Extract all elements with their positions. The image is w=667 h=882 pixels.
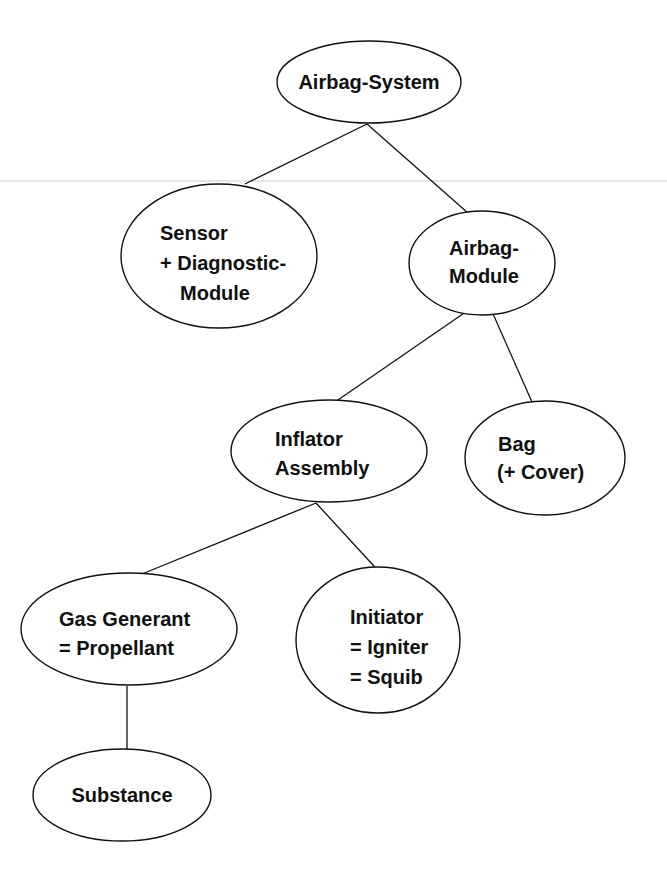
node-label: Airbag-System [298, 71, 439, 93]
node-label-line-2: = Propellant [59, 637, 174, 659]
node-initiator: Initiator = Igniter = Squib [296, 567, 460, 713]
node-sensor-diagnostic-module: Sensor + Diagnostic- Module [121, 184, 317, 328]
node-label-line-1: Inflator [275, 428, 343, 450]
node-label-line-1: Bag [498, 433, 536, 455]
node-label-line-2: = Igniter [350, 636, 429, 658]
node-label-line-1: Sensor [160, 222, 228, 244]
node-label-line-2: Module [449, 265, 519, 287]
node-ellipse [409, 211, 555, 315]
edge-inflator-to-initiator [316, 503, 384, 577]
node-ellipse [231, 400, 427, 502]
node-label-line-2: (+ Cover) [497, 461, 584, 483]
node-inflator-assembly: Inflator Assembly [231, 400, 427, 502]
node-label-line-2: Assembly [275, 457, 370, 479]
node-label-line-1: Airbag- [449, 237, 519, 259]
edge-system-to-sensor [245, 124, 367, 184]
node-label-line-1: Gas Generant [59, 608, 191, 630]
node-airbag-system: Airbag-System [277, 41, 461, 123]
node-airbag-module: Airbag- Module [409, 211, 555, 315]
node-substance: Substance [33, 749, 211, 841]
node-label-line-1: Initiator [350, 606, 424, 628]
node-gas-generant: Gas Generant = Propellant [21, 573, 237, 685]
node-label-line-3: = Squib [350, 666, 423, 688]
edge-inflator-to-gas-generant [142, 503, 316, 574]
node-label-line-3: Module [180, 282, 250, 304]
node-ellipse [465, 401, 625, 515]
node-bag-cover: Bag (+ Cover) [465, 401, 625, 515]
airbag-system-tree-diagram: Airbag-System Sensor + Diagnostic- Modul… [0, 0, 667, 882]
node-label-line-2: + Diagnostic- [160, 252, 286, 274]
node-label: Substance [71, 784, 172, 806]
